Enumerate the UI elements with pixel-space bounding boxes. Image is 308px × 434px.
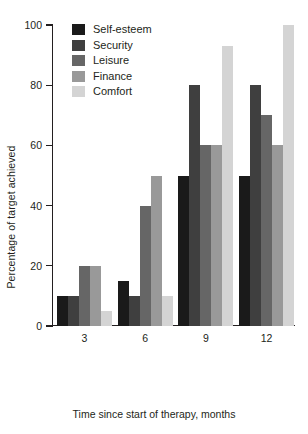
bar [189,85,200,326]
y-axis-line [52,24,53,327]
legend-label: Comfort [93,86,132,97]
y-axis-tick-label: 60 [0,140,42,151]
bar [283,25,294,326]
x-axis-title: Time since start of therapy, months [0,408,308,420]
y-axis-tick-label: 20 [0,261,42,272]
legend-swatch-icon [72,24,85,35]
legend-item: Finance [72,69,152,84]
bar-group [178,25,233,326]
bar [90,266,101,326]
bar [211,145,222,326]
bar [68,296,79,326]
bar [200,145,211,326]
bar [261,115,272,326]
y-axis-tick [46,24,52,25]
bar [140,206,151,326]
bar-group [239,25,294,326]
y-axis-tick [46,325,52,326]
legend-item: Security [72,38,152,53]
y-axis-tick-label: 40 [0,200,42,211]
y-axis-tick-label: 0 [0,321,42,332]
y-axis-tick-label: 80 [0,80,42,91]
bar [162,296,173,326]
x-axis-tick-label: 9 [203,333,209,344]
x-axis-tick-label: 3 [81,333,87,344]
legend: Self-esteemSecurityLeisureFinanceComfort [72,22,152,100]
legend-swatch-icon [72,71,85,82]
legend-swatch-icon [72,40,85,51]
bar [250,85,261,326]
bar [222,46,233,326]
bar [57,296,68,326]
legend-item: Self-esteem [72,22,152,37]
bar [272,145,283,326]
y-axis-tick [46,85,52,86]
legend-item: Comfort [72,84,152,99]
bar [79,266,90,326]
bar [178,176,189,327]
bar [101,311,112,326]
x-axis-tick-label: 12 [261,333,273,344]
bar [239,176,250,327]
bar-chart: Percentage of target achieved 0204060801… [0,0,308,434]
legend-label: Self-esteem [93,24,152,35]
y-axis-tick [46,205,52,206]
legend-item: Leisure [72,53,152,68]
y-axis-tick [46,145,52,146]
y-axis-title: Percentage of target achieved [0,0,22,434]
legend-label: Security [93,40,133,51]
x-axis-tick-label: 6 [142,333,148,344]
y-axis-tick-label: 100 [0,20,42,31]
legend-label: Finance [93,71,132,82]
y-axis-tick [46,265,52,266]
bar [129,296,140,326]
bar [118,281,129,326]
legend-swatch-icon [72,55,85,66]
legend-label: Leisure [93,55,129,66]
legend-swatch-icon [72,86,85,97]
bar [151,176,162,327]
